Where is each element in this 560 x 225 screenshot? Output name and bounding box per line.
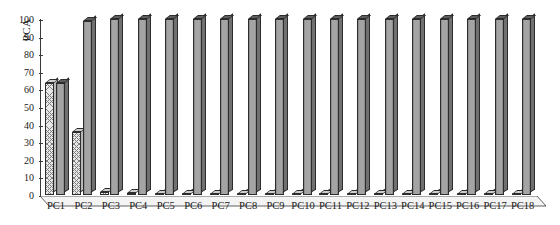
y-tick-label: 30 — [6, 138, 40, 148]
bar-front-face — [495, 19, 504, 195]
y-tick-label: 20 — [6, 156, 40, 166]
bar-group — [457, 18, 484, 195]
bar-side-face — [312, 14, 316, 192]
bar-cumulative — [495, 19, 504, 195]
bar-cumulative — [248, 19, 257, 195]
bar-cumulative — [385, 19, 394, 195]
bar-front-face — [56, 83, 65, 195]
bar-group — [292, 18, 319, 195]
bar-individual — [182, 194, 191, 196]
bar-individual — [512, 194, 521, 196]
bar-cumulative — [220, 19, 229, 195]
bar-cumulative — [138, 19, 147, 195]
bar-side-face — [421, 14, 425, 192]
bar-front-face — [440, 19, 449, 195]
bar-cumulative — [440, 19, 449, 195]
bar-side-face — [202, 14, 206, 192]
bar-side-face — [257, 14, 261, 192]
bar-front-face — [412, 19, 421, 195]
bar-cumulative — [303, 19, 312, 195]
bar-side-face — [92, 15, 96, 192]
bar-side-face — [147, 14, 151, 192]
bar-side-face — [65, 78, 69, 192]
bar-side-face — [531, 14, 535, 192]
bar-group — [182, 18, 209, 195]
bar-front-face — [138, 19, 147, 195]
y-tick-label: 100 — [6, 15, 40, 25]
bar-side-face — [449, 14, 453, 192]
bar-individual — [292, 194, 301, 196]
bar-front-face — [193, 19, 202, 195]
bar-individual — [457, 194, 466, 196]
pca-scree-chart: PCA 0102030405060708090100 PC1PC2PC3PC4P… — [0, 0, 560, 225]
bar-front-face — [467, 19, 476, 195]
bar-front-face — [357, 19, 366, 195]
bar-front-face — [385, 19, 394, 195]
bar-group — [512, 18, 539, 195]
bar-group — [72, 18, 99, 195]
y-tick-label: 60 — [6, 85, 40, 95]
bar-individual — [374, 194, 383, 196]
bar-cumulative — [330, 19, 339, 195]
bar-cumulative — [522, 19, 531, 195]
bar-front-face — [100, 192, 109, 195]
bar-group — [484, 18, 511, 195]
bar-front-face — [83, 21, 92, 195]
bar-side-face — [229, 14, 233, 192]
bar-individual — [265, 194, 274, 196]
bar-individual — [45, 83, 54, 195]
bar-individual — [127, 193, 136, 195]
bar-side-face — [394, 14, 398, 192]
y-tick-label: 70 — [6, 68, 40, 78]
bar-front-face — [110, 19, 119, 195]
bar-cumulative — [193, 19, 202, 195]
bar-individual — [347, 194, 356, 196]
bar-cumulative — [467, 19, 476, 195]
y-tick-label: 80 — [6, 50, 40, 60]
bar-group — [265, 18, 292, 195]
y-tick-label: 90 — [6, 33, 40, 43]
bar-group — [237, 18, 264, 195]
bar-side-face — [504, 14, 508, 192]
bar-individual — [237, 194, 246, 196]
bar-side-face — [339, 14, 343, 192]
bar-group — [347, 18, 374, 195]
bar-side-face — [284, 14, 288, 192]
bar-front-face — [275, 19, 284, 195]
bar-individual — [319, 194, 328, 196]
bar-front-face — [72, 132, 81, 195]
bar-cumulative — [275, 19, 284, 195]
bar-group — [374, 18, 401, 195]
y-tick-label: 40 — [6, 121, 40, 131]
bar-cumulative — [83, 21, 92, 195]
bar-front-face — [220, 19, 229, 195]
bar-individual — [100, 192, 109, 195]
bar-front-face — [522, 19, 531, 195]
bar-group — [402, 18, 429, 195]
x-tick-label: PC18 — [500, 200, 546, 211]
bar-front-face — [303, 19, 312, 195]
bar-individual — [155, 194, 164, 196]
bar-individual — [402, 194, 411, 196]
bar-individual — [429, 194, 438, 196]
bar-group — [319, 18, 346, 195]
bar-side-face — [366, 14, 370, 192]
bar-cumulative — [412, 19, 421, 195]
y-tick-label: 50 — [6, 103, 40, 113]
bar-front-face — [248, 19, 257, 195]
bar-side-face — [174, 14, 178, 192]
bar-group — [429, 18, 456, 195]
plot-area: 0102030405060708090100 — [40, 19, 546, 195]
bar-group — [127, 18, 154, 195]
bar-individual — [484, 194, 493, 196]
bar-side-face — [119, 14, 123, 192]
bar-cumulative — [357, 19, 366, 195]
bar-group — [210, 18, 237, 195]
bar-cumulative — [110, 19, 119, 195]
bar-individual — [210, 194, 219, 196]
bar-group — [100, 18, 127, 195]
y-tick-label: 10 — [6, 173, 40, 183]
bar-front-face — [165, 19, 174, 195]
bar-group — [45, 18, 72, 195]
bar-side-face — [476, 14, 480, 192]
